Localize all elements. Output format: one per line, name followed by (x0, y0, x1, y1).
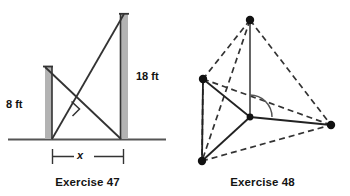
dashed-edge-apex-right (250, 20, 331, 125)
exercise-47-drawing (8, 13, 166, 164)
label-right-pole-height: 18 ft (136, 70, 159, 82)
exercise-48-drawing (198, 16, 335, 165)
solid-edge-left-bottom-left-front (202, 79, 203, 161)
caption-exercise-48: Exercise 48 (175, 176, 350, 188)
wire-short-top-to-tall-base (45, 67, 121, 139)
textbook-figure-pair: 8 ft 18 ft x Exercise 47 Exercise 48 (0, 0, 350, 196)
vertex-dot-bottom-left (198, 157, 206, 165)
solid-edge-left-center (203, 79, 250, 117)
label-ground-distance: x (77, 149, 83, 161)
figure-drawing-canvas (0, 0, 350, 196)
left-pole-body (45, 66, 52, 139)
vertex-dot-left (199, 75, 207, 83)
caption-exercise-47: Exercise 47 (0, 176, 175, 188)
dashed-edge-apex-left (203, 20, 250, 79)
vertex-dot-right (327, 121, 335, 129)
wire-short-base-to-tall-top (52, 14, 124, 139)
label-left-pole-height: 8 ft (6, 98, 23, 110)
right-angle-arc (250, 95, 272, 117)
vertex-dot-center (247, 114, 254, 121)
vertex-dot-apex (246, 16, 254, 24)
